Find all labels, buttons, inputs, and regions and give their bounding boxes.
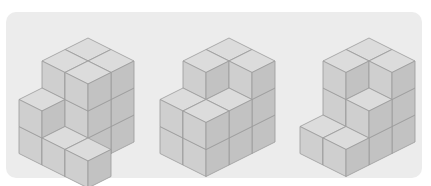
- figure-1: [19, 38, 134, 186]
- figure-3: [300, 38, 415, 177]
- figure-2: [160, 38, 275, 177]
- cube-figures: [0, 0, 431, 186]
